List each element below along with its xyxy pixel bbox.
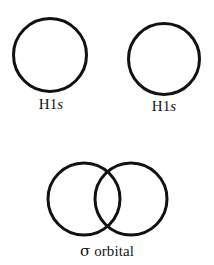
h1s-right-subshell: s [170, 98, 176, 114]
h1s-right-element: H1 [152, 98, 171, 114]
h1s-right-label: H1s [114, 99, 214, 114]
sigma-orbital-word: orbital [94, 243, 134, 259]
orbital-diagram: H1s H1s σ orbital [0, 0, 214, 265]
h1s-left-element: H1 [39, 96, 58, 112]
sigma-symbol: σ [80, 242, 90, 260]
orbital-diagram-canvas [0, 0, 214, 265]
sigma-orbital-label: σ orbital [0, 244, 214, 259]
h1s-left-label: H1s [0, 97, 102, 112]
h1s-left-subshell: s [57, 96, 63, 112]
